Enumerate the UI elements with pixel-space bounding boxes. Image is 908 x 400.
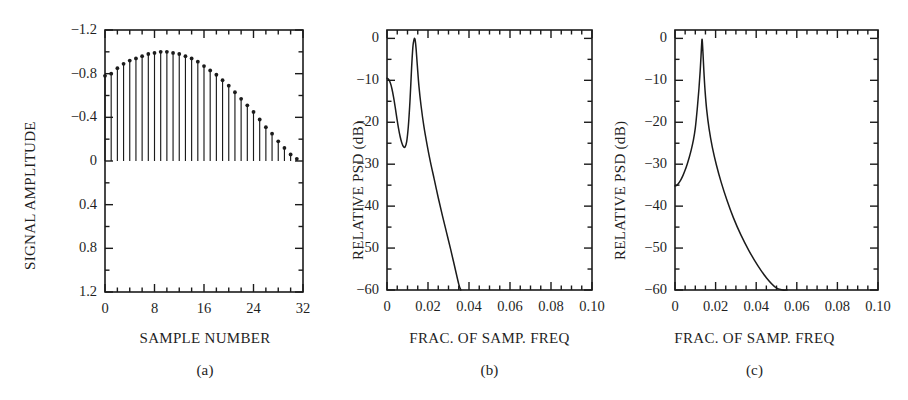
y-tick-label: −10 bbox=[325, 71, 379, 88]
y-tick-label: −1.2 bbox=[43, 21, 97, 38]
y-tick-label: −50 bbox=[325, 239, 379, 256]
panel-c-x-axis-title: FRAC. OF SAMP. FREQ bbox=[652, 330, 857, 347]
y-tick-label: −0.8 bbox=[43, 65, 97, 82]
y-tick-label: 0 bbox=[613, 29, 667, 46]
panel-c: RELATIVE PSD (dB) FRAC. OF SAMP. FREQ (c… bbox=[590, 0, 908, 400]
panel-b: RELATIVE PSD (dB) FRAC. OF SAMP. FREQ (b… bbox=[300, 0, 600, 400]
panel-a-caption: (a) bbox=[105, 362, 305, 379]
panel-b-caption: (b) bbox=[387, 362, 592, 379]
y-tick-label: 0 bbox=[43, 152, 97, 169]
y-tick-label: −40 bbox=[613, 197, 667, 214]
y-tick-label: −20 bbox=[325, 113, 379, 130]
y-tick-label: −10 bbox=[613, 71, 667, 88]
y-tick-label: −50 bbox=[613, 239, 667, 256]
y-tick-label: −30 bbox=[325, 155, 379, 172]
panel-c-caption: (c) bbox=[652, 362, 857, 379]
y-tick-label: 0.8 bbox=[43, 239, 97, 256]
panel-a-y-axis-title: SIGNAL AMPLITUDE bbox=[22, 121, 39, 270]
y-tick-label: −30 bbox=[613, 155, 667, 172]
y-tick-label: −60 bbox=[325, 281, 379, 298]
panel-b-x-axis-title: FRAC. OF SAMP. FREQ bbox=[387, 330, 592, 347]
y-tick-label: 0 bbox=[325, 29, 379, 46]
panel-a: SIGNAL AMPLITUDE SAMPLE NUMBER (a) 08162… bbox=[0, 0, 320, 400]
y-tick-label: −0.4 bbox=[43, 108, 97, 125]
y-tick-label: −20 bbox=[613, 113, 667, 130]
y-tick-label: 0.4 bbox=[43, 196, 97, 213]
figure-three-panel-psd: SIGNAL AMPLITUDE SAMPLE NUMBER (a) 08162… bbox=[0, 0, 908, 400]
panel-a-x-axis-title: SAMPLE NUMBER bbox=[105, 330, 305, 347]
x-tick-label: 0.10 bbox=[848, 298, 908, 315]
y-tick-label: −60 bbox=[613, 281, 667, 298]
y-tick-label: −40 bbox=[325, 197, 379, 214]
y-tick-label: 1.2 bbox=[43, 283, 97, 300]
